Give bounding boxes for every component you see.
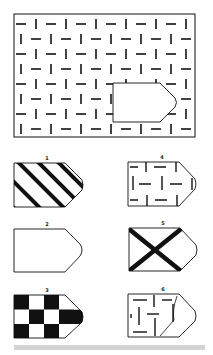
option-label: 1 bbox=[45, 155, 49, 161]
main-pattern-panel bbox=[14, 14, 195, 137]
bottom-bar bbox=[14, 345, 205, 350]
option-label: 4 bbox=[160, 154, 164, 160]
option-3[interactable]: 3 bbox=[14, 287, 84, 339]
option-4[interactable]: 4 bbox=[128, 154, 198, 206]
option-6[interactable]: 6 bbox=[128, 286, 196, 337]
option-label: 2 bbox=[45, 221, 49, 227]
option-label: 5 bbox=[161, 220, 165, 226]
option-2[interactable]: 2 bbox=[14, 221, 82, 272]
option-label: 6 bbox=[161, 286, 165, 292]
option-5[interactable]: 5 bbox=[129, 220, 199, 272]
option-label: 3 bbox=[45, 287, 49, 293]
